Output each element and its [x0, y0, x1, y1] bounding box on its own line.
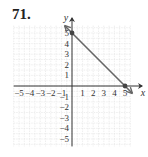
x-tick-label: 4 — [112, 88, 117, 98]
x-tick-label: 1 — [80, 88, 85, 98]
x-axis-label: x — [140, 87, 146, 98]
y-tick-label: −3 — [59, 113, 69, 123]
intercept-point — [123, 84, 128, 89]
y-tick-label: −2 — [59, 102, 69, 112]
axes: xy — [14, 12, 146, 146]
y-axis-label: y — [63, 12, 69, 23]
y-tick-label: 2 — [65, 60, 70, 70]
coordinate-graph: xy −5−4−3−2−11234554321−1−2−3−4−5 — [0, 0, 148, 157]
intercept-point — [70, 31, 75, 36]
x-tick-label: 5 — [123, 88, 128, 98]
y-tick-label: 4 — [65, 39, 70, 49]
x-tick-label: −5 — [14, 88, 24, 98]
x-tick-label: 3 — [102, 88, 107, 98]
x-tick-label: −2 — [46, 88, 56, 98]
y-tick-label: −4 — [59, 123, 69, 133]
y-tick-label: 1 — [65, 70, 70, 80]
x-tick-label: −4 — [25, 88, 35, 98]
y-tick-label: −1 — [59, 92, 69, 102]
x-tick-label: −3 — [35, 88, 45, 98]
y-tick-label: −5 — [59, 134, 69, 144]
y-tick-label: 3 — [65, 49, 70, 59]
x-tick-label: 2 — [91, 88, 96, 98]
